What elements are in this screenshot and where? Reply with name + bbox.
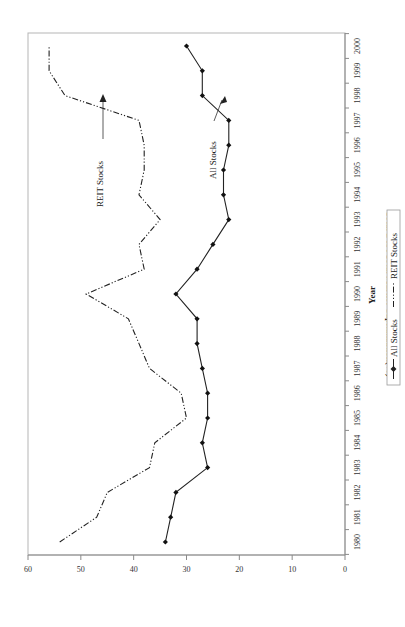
y-axis-ticks: 0102030405060 (24, 555, 347, 574)
legend: All Stocks REIT Stocks (387, 210, 400, 385)
all-stocks-markers (163, 43, 232, 544)
x-tick-label: 1995 (353, 162, 362, 178)
diamond-marker-icon (226, 143, 231, 148)
diamond-marker-icon (221, 192, 226, 197)
x-tick-label: 1989 (353, 311, 362, 327)
diamond-marker-icon (194, 341, 199, 346)
x-tick-label: 2000 (353, 38, 362, 54)
diamond-marker-icon (184, 43, 189, 48)
plot-frame (28, 33, 345, 555)
x-tick-label: 1991 (353, 261, 362, 277)
annotation-reit-arrowhead-icon (100, 94, 107, 102)
y-tick-label: 20 (235, 565, 243, 574)
x-tick-label: 1985 (353, 410, 362, 426)
x-tick-label: 1999 (353, 63, 362, 79)
x-tick-label: 1987 (353, 360, 362, 376)
x-tick-label: 1994 (353, 187, 362, 203)
diamond-marker-icon (205, 415, 210, 420)
x-tick-label: 1986 (353, 385, 362, 401)
diamond-marker-icon (168, 515, 173, 520)
x-axis-title: Year (367, 286, 377, 304)
diamond-marker-icon (205, 391, 210, 396)
x-tick-label: 1996 (353, 137, 362, 153)
diamond-marker-icon (226, 217, 231, 222)
annotation-all-arrowhead-icon (220, 96, 227, 104)
diamond-marker-icon (163, 539, 168, 544)
y-tick-label: 50 (77, 565, 85, 574)
reit-stocks-series (49, 46, 186, 542)
y-tick-label: 0 (343, 565, 347, 574)
x-tick-label: 1984 (353, 435, 362, 451)
legend-reit-stocks-label: REIT Stocks (389, 232, 399, 279)
x-tick-label: 1997 (353, 112, 362, 128)
x-tick-label: 1981 (353, 509, 362, 525)
annotation-reit-stocks: REIT Stocks (95, 160, 105, 207)
chart: 0102030405060 19801981198219831984198519… (0, 0, 405, 627)
y-tick-label: 30 (183, 565, 191, 574)
y-tick-label: 40 (130, 565, 138, 574)
y-tick-label: 60 (24, 565, 32, 574)
x-tick-label: 1993 (353, 212, 362, 228)
diamond-marker-icon (200, 366, 205, 371)
x-tick-label: 1998 (353, 88, 362, 104)
x-tick-label: 1990 (353, 286, 362, 302)
legend-all-stocks-label: All Stocks (389, 319, 399, 357)
diamond-marker-icon (200, 440, 205, 445)
diamond-marker-icon (221, 167, 226, 172)
annotation-all-stocks: All Stocks (208, 141, 218, 179)
x-tick-label: 1988 (353, 336, 362, 352)
y-tick-label: 10 (288, 565, 296, 574)
x-tick-label: 1983 (353, 460, 362, 476)
x-tick-label: 1992 (353, 236, 362, 252)
x-tick-label: 1980 (353, 534, 362, 550)
x-axis-ticks: 1980198119821983198419851986198719881989… (345, 34, 362, 555)
x-tick-label: 1982 (353, 484, 362, 500)
